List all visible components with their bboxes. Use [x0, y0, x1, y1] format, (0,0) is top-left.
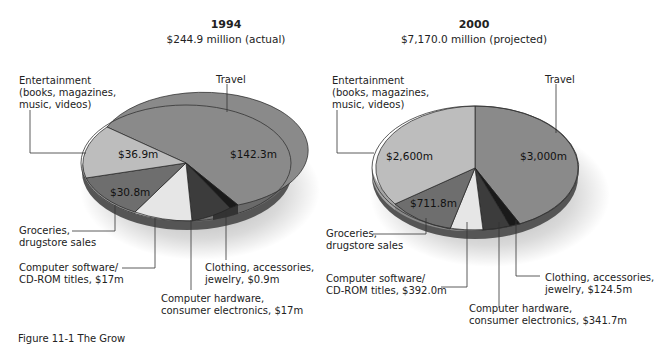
left-label-groceries: Groceries, drugstore sales [19, 225, 96, 249]
left-label-software: Computer software/ CD-ROM titles, $17m [19, 262, 124, 286]
right-label-travel: Travel [545, 74, 575, 86]
figure-caption: Figure 11-1 The Grow [18, 333, 125, 344]
right-value-entertainment: $2,600m [386, 150, 433, 162]
left-value-travel: $142.3m [230, 148, 277, 160]
right-value-travel: $3,000m [520, 150, 567, 162]
left-label-hardware: Computer hardware, consumer electronics,… [161, 293, 303, 317]
right-label-groceries: Groceries, drugstore sales [326, 228, 403, 252]
right-value-groceries: $711.8m [410, 197, 457, 209]
left-label-entertainment: Entertainment (books, magazines, music, … [19, 75, 116, 111]
left-label-travel: Travel [216, 74, 246, 86]
right-label-clothing: Clothing, accessories, jewelry, $124.5m [545, 272, 654, 296]
left-pie: $36.9m $142.3m $30.8m [30, 84, 320, 290]
right-label-software: Computer software/ CD-ROM titles, $392.0… [326, 273, 447, 297]
right-label-hardware: Computer hardware, consumer electronics,… [469, 303, 627, 327]
left-value-groceries: $30.8m [110, 186, 150, 198]
left-value-entertainment: $36.9m [118, 148, 158, 160]
right-label-entertainment: Entertainment (books, magazines, music, … [332, 75, 429, 111]
left-label-clothing: Clothing, accessories, jewelry, $0.9m [205, 262, 314, 286]
